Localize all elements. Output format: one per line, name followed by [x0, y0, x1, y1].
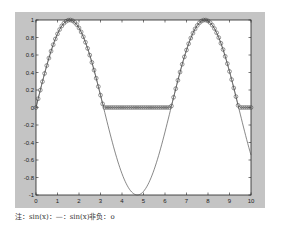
x-tick-label: 10 — [248, 198, 255, 204]
figure-caption: 注：sin(x)：—：sin(x)非负：o — [15, 211, 115, 221]
x-tick-label: 5 — [142, 198, 146, 204]
x-tick-label: 7 — [185, 198, 189, 204]
y-tick-label: 0.4 — [26, 70, 35, 76]
x-tick-label: 4 — [120, 198, 124, 204]
x-tick-label: 8 — [206, 198, 210, 204]
y-tick-label: -0.4 — [24, 140, 35, 146]
x-tick-label: 1 — [56, 198, 60, 204]
y-tick-label: -0.2 — [24, 122, 35, 128]
y-tick-label: 0.8 — [26, 35, 35, 41]
chart-plot: 01234567891010.80.60.40.20-0.2-0.4-0.6-0… — [0, 0, 282, 228]
y-tick-label: -0.8 — [24, 175, 35, 181]
y-tick-label: -1 — [29, 192, 35, 198]
x-tick-label: 2 — [77, 198, 81, 204]
y-tick-label: 0.2 — [26, 87, 35, 93]
x-tick-label: 3 — [99, 198, 103, 204]
y-tick-label: 1 — [31, 17, 35, 23]
x-tick-label: 0 — [34, 198, 38, 204]
x-tick-label: 9 — [228, 198, 232, 204]
y-tick-label: 0.6 — [26, 52, 35, 58]
y-tick-label: -0.6 — [24, 157, 35, 163]
x-tick-label: 6 — [163, 198, 167, 204]
